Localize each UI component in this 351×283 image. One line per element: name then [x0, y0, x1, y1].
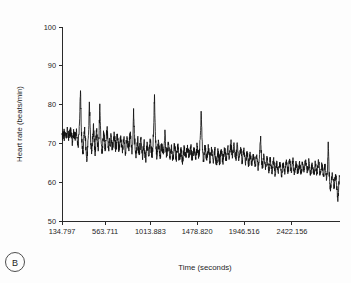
- x-tick-label: 563.711: [92, 227, 118, 236]
- heart-rate-chart: 5060708090100 134.797563.7111013.8831478…: [0, 0, 351, 283]
- panel-label-letter: B: [12, 258, 18, 268]
- x-tick-label: 1478.820: [182, 227, 213, 236]
- data-trace: [62, 91, 339, 202]
- y-tick-label: 50: [48, 217, 56, 226]
- x-tick-label: 2422.156: [277, 227, 308, 236]
- x-axis-title: Time (seconds): [178, 263, 232, 272]
- heart-rate-line: [62, 91, 339, 202]
- y-tick-labels: 5060708090100: [44, 23, 56, 226]
- y-tick-label: 60: [48, 178, 56, 187]
- x-tick-labels: 134.797563.7111013.8831478.8201946.51624…: [49, 227, 308, 236]
- x-tick-label: 134.797: [49, 227, 76, 236]
- y-tick-label: 100: [44, 23, 56, 32]
- panel-label-b: B: [6, 253, 25, 272]
- y-tick-label: 70: [48, 139, 56, 148]
- y-tick-label: 80: [48, 100, 56, 109]
- figure-panel: 5060708090100 134.797563.7111013.8831478…: [0, 0, 351, 283]
- y-axis-title: Heart rate (beats/min): [15, 86, 24, 162]
- x-tick-label: 1013.883: [135, 227, 166, 236]
- y-tick-label: 90: [48, 61, 56, 70]
- x-tick-label: 1946.516: [229, 227, 260, 236]
